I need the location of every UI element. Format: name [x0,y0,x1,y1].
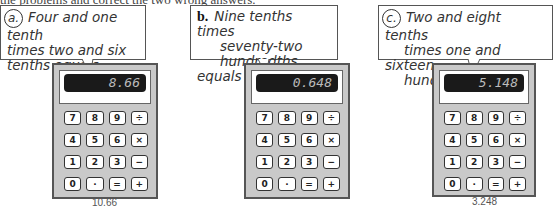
key-1[interactable]: 1 [444,155,461,169]
display-frame: 5.148 [439,70,529,104]
question-line: Two and eight tenths [385,9,501,43]
key-plus[interactable]: + [131,177,148,191]
key-3[interactable]: 3 [488,155,505,169]
key-2[interactable]: 2 [278,155,295,169]
key-equals[interactable]: = [301,177,318,191]
corrected-answer: 3.248 [472,196,497,207]
key-3[interactable]: 3 [301,155,318,169]
key-2[interactable]: 2 [86,155,103,169]
calculator-display: 0.648 [256,74,338,92]
key-9[interactable]: 9 [109,111,126,125]
key-6[interactable]: 6 [488,133,505,147]
key-divide[interactable]: ÷ [131,111,148,125]
keypad: 789÷ 456× 123− 0·=+ [444,111,526,191]
key-7[interactable]: 7 [64,111,81,125]
calculator-display: 5.148 [444,74,524,92]
key-4[interactable]: 4 [444,133,461,147]
calculator-a: 8.66 789÷ 456× 123− 0·=+ [52,63,158,199]
key-4[interactable]: 4 [256,133,273,147]
key-multiply[interactable]: × [323,133,340,147]
problem-a-bubble: a.Four and one tenth times two and six t… [0,5,146,60]
key-plus[interactable]: + [509,177,526,191]
keypad: 789÷ 456× 123− 0·=+ [256,111,340,191]
key-minus[interactable]: − [131,155,148,169]
key-2[interactable]: 2 [466,155,483,169]
key-5[interactable]: 5 [86,133,103,147]
key-7[interactable]: 7 [256,111,273,125]
key-decimal[interactable]: · [278,177,295,191]
key-decimal[interactable]: · [86,177,103,191]
problem-label: c. [382,9,401,28]
question-line: seventy-two [220,38,302,54]
key-0[interactable]: 0 [444,177,461,191]
key-5[interactable]: 5 [278,133,295,147]
key-divide[interactable]: ÷ [323,111,340,125]
key-0[interactable]: 0 [256,177,273,191]
problem-label: b. [197,9,208,24]
key-1[interactable]: 1 [256,155,273,169]
keypad: 789÷ 456× 123− 0·=+ [64,111,148,191]
key-plus[interactable]: + [323,177,340,191]
key-6[interactable]: 6 [109,133,126,147]
key-7[interactable]: 7 [444,111,461,125]
calculator-b: 0.648 789÷ 456× 123− 0·=+ [244,63,350,199]
problem-b-bubble: b.Nine tenths times seventy-two hundredt… [190,5,338,60]
display-frame: 8.66 [59,70,151,104]
key-multiply[interactable]: × [131,133,148,147]
question-line: times two and six [7,42,126,58]
display-frame: 0.648 [251,70,343,104]
key-9[interactable]: 9 [301,111,318,125]
key-multiply[interactable]: × [509,133,526,147]
problem-c-bubble: c.Two and eight tenths times one and six… [378,5,553,60]
calculator-c: 5.148 789÷ 456× 123− 0·=+ [432,63,536,197]
key-8[interactable]: 8 [278,111,295,125]
key-4[interactable]: 4 [64,133,81,147]
key-divide[interactable]: ÷ [509,111,526,125]
corrected-answer: 10.66 [92,197,117,208]
key-equals[interactable]: = [488,177,505,191]
key-6[interactable]: 6 [301,133,318,147]
key-minus[interactable]: − [323,155,340,169]
key-8[interactable]: 8 [466,111,483,125]
key-equals[interactable]: = [109,177,126,191]
key-decimal[interactable]: · [466,177,483,191]
question-line: Nine tenths times [197,8,292,39]
question-line: Four and one tenth [7,9,117,43]
key-0[interactable]: 0 [64,177,81,191]
key-1[interactable]: 1 [64,155,81,169]
key-5[interactable]: 5 [466,133,483,147]
problem-label: a. [4,9,23,28]
key-3[interactable]: 3 [109,155,126,169]
key-minus[interactable]: − [509,155,526,169]
key-8[interactable]: 8 [86,111,103,125]
calculator-display: 8.66 [64,74,146,92]
key-9[interactable]: 9 [488,111,505,125]
